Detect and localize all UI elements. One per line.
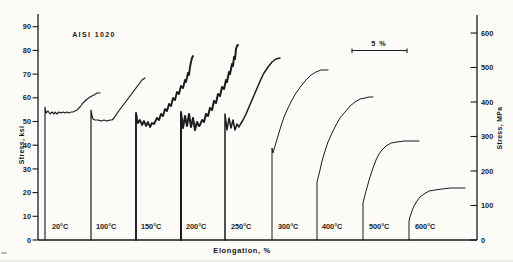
tick-label-ksi-20: 20 [23,188,31,197]
chart-title: AISI 1020 [72,31,116,38]
scan-artifact [1,252,7,254]
tick-label-mpa-500: 500 [481,63,493,72]
tick-label-ksi-80: 80 [23,46,31,55]
tick-label-mpa-0: 0 [481,236,485,245]
curve-600c [409,188,465,240]
tick-label-mpa-300: 300 [481,132,493,141]
tick-label-mpa-200: 200 [481,167,493,176]
temp-label-250c: 250°C [231,222,252,231]
curve-300c [272,70,328,240]
tick-label-ksi-90: 90 [23,22,31,31]
temp-label-150c: 150°C [141,222,162,231]
y-axis-left-label: Stress, ksi [18,126,25,164]
figure-page: 0102030405060708090010020030040050060020… [0,0,513,262]
x-axis-label: Elongation, % [213,246,270,255]
temp-label-400c: 400°C [322,222,343,231]
temp-label-600c: 600°C [415,222,436,231]
tick-label-mpa-100: 100 [481,201,493,210]
strain-scale-bar-label: 5 % [371,39,386,48]
temp-label-500c: 500°C [369,222,390,231]
tick-label-ksi-70: 70 [23,70,31,79]
scan-shadow [0,258,513,262]
tick-label-ksi-10: 10 [23,212,31,221]
temp-label-20c: 20°C [52,222,69,231]
temp-label-300c: 300°C [278,222,299,231]
tick-label-ksi-30: 30 [23,165,31,174]
temp-label-200c: 200°C [186,222,207,231]
tick-label-mpa-400: 400 [481,98,493,107]
tick-label-ksi-60: 60 [23,93,31,102]
temp-label-100c: 100°C [96,222,117,231]
curve-400c [317,97,373,240]
stress-strain-plot: 0102030405060708090010020030040050060020… [0,0,513,262]
tick-label-ksi-50: 50 [23,117,31,126]
curve-150c [136,56,193,240]
tick-label-mpa-600: 600 [481,29,493,38]
y-axis-right-label: Stress, MPa [496,107,503,150]
tick-label-ksi-0: 0 [27,236,31,245]
